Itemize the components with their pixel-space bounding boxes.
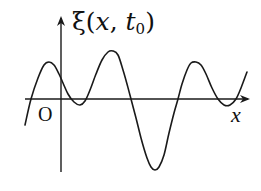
y-label-var-x: x: [96, 7, 110, 36]
y-axis-label: ξ(x, t0): [72, 9, 155, 37]
origin-label: O: [38, 104, 52, 124]
xi-symbol: ξ: [72, 7, 86, 36]
wave-diagram: ξ(x, t0) O x: [0, 0, 261, 191]
wave-curve: [25, 51, 247, 170]
x-axis-label: x: [231, 104, 241, 126]
y-label-subscript: 0: [136, 20, 146, 38]
y-label-var-t: t: [126, 7, 136, 36]
